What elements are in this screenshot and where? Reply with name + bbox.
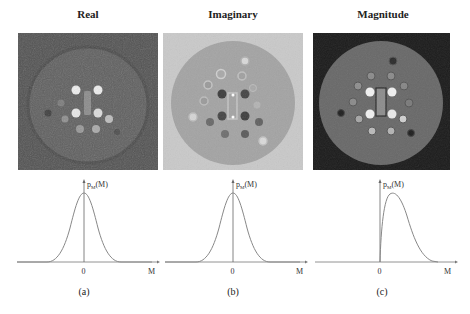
- y-axis-arrow-icon: [379, 179, 382, 183]
- x-axis-arrow-icon: [455, 261, 458, 264]
- mri-image-magnitude: [313, 33, 453, 170]
- gaussian-curve: [17, 193, 152, 262]
- x-axis-label: M: [148, 267, 155, 276]
- panel-title-magnitude: Magnitude: [313, 8, 453, 20]
- panel-title-imaginary: Imaginary: [163, 8, 303, 20]
- y-axis-label: pM(M): [87, 180, 108, 190]
- caption-a: (a): [64, 286, 104, 297]
- caption-b: (b): [213, 286, 253, 297]
- pdf-plot-magnitude: pM(M) 0 M: [310, 178, 460, 278]
- y-axis-label: pM(M): [383, 180, 404, 190]
- pdf-plot-real: pM(M) 0 M: [12, 178, 162, 278]
- mri-image-imaginary: [163, 33, 303, 170]
- panel-title-real: Real: [18, 8, 158, 20]
- x-axis-arrow-icon: [305, 261, 308, 264]
- mri-image-real: [18, 33, 158, 170]
- origin-label: 0: [231, 267, 235, 276]
- caption-c: (c): [362, 286, 402, 297]
- x-axis-label: M: [444, 267, 451, 276]
- y-axis-label: pM(M): [236, 180, 257, 190]
- origin-label: 0: [82, 267, 86, 276]
- x-axis-label: M: [296, 267, 303, 276]
- y-axis-arrow-icon: [83, 179, 86, 183]
- pdf-plot-imaginary: pM(M) 0 M: [160, 178, 310, 278]
- origin-label: 0: [378, 267, 382, 276]
- y-axis-arrow-icon: [232, 179, 235, 183]
- gaussian-curve: [165, 193, 300, 262]
- rician-curve: [380, 193, 438, 262]
